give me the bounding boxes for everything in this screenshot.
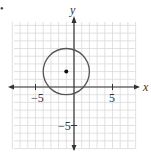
item-bullet: •	[0, 3, 4, 14]
coordinate-plane: −5 5 −5 x y •	[0, 0, 151, 152]
x-axis-label: x	[142, 80, 149, 94]
y-axis-label: y	[69, 3, 76, 17]
y-axis	[72, 16, 77, 151]
tick-label-y-neg5: −5	[58, 119, 71, 133]
center-point	[64, 70, 68, 74]
arrow-down-icon	[72, 145, 77, 151]
tick-label-x-neg5: −5	[31, 91, 44, 105]
arrow-right-icon	[134, 85, 140, 90]
arrow-left-icon	[8, 85, 14, 90]
arrow-up-icon	[72, 16, 77, 23]
tick-label-x-pos5: 5	[109, 91, 115, 105]
